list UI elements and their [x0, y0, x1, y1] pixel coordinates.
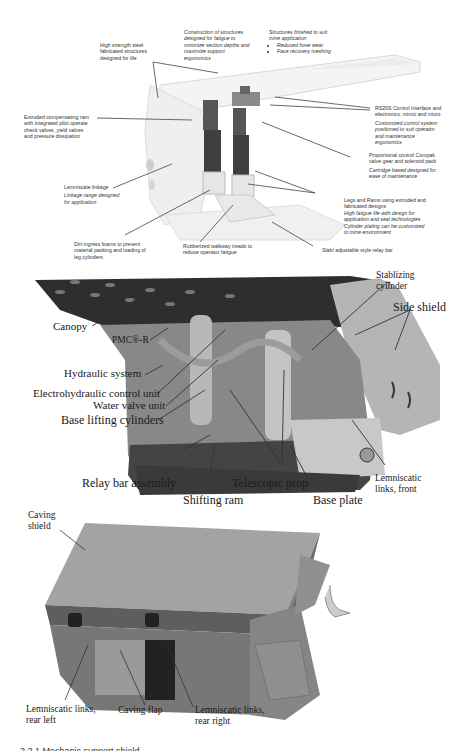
label-dirt: Dirt ingress foams to prevent material p…: [74, 241, 146, 260]
label-construction: Construction of structures designed for …: [184, 29, 249, 61]
label-caving-shield: Caving shield: [28, 510, 55, 531]
label-side-shield: Side shield: [393, 301, 446, 313]
figure-caption: 2.2.1 Mechanic support shield: [20, 744, 140, 751]
label-pmc-r: PMC®-R: [112, 335, 149, 346]
label-lemniscatic-links-front: Lemniscatic links, front: [375, 473, 421, 494]
label-high-strength: High strength steel fabricated structure…: [100, 42, 147, 61]
label-rubberized: Rubberized walkway treads to reduce oper…: [183, 243, 252, 256]
shield-support-panel: Canopy PMC®-R Hydraulic system Electrohy…: [0, 270, 471, 520]
label-base-plate: Base plate: [313, 494, 363, 506]
label-shifting-ram: Shifting ram: [183, 494, 243, 506]
label-extruded: Extruded compensating ram with integrate…: [24, 114, 89, 140]
label-finished: Structures finished to suit mine applica…: [269, 29, 331, 55]
label-electrohydraulic-control-unit: Electrohydraulic control unit: [33, 387, 160, 399]
finished-bullets: Reduced hose wear Face recovery meshing: [269, 42, 331, 55]
label-lemniscatic-links-rear-right: Lemniscatic links, rear right: [195, 705, 265, 726]
label-telescopic-prop: Telescopic prop: [232, 477, 308, 489]
caving-shield-panel: Caving shield Lemniscatic links, rear le…: [0, 515, 471, 745]
label-caving-flap: Caving flap: [118, 705, 163, 716]
annotated-support-panel: High strength steel fabricated structure…: [0, 0, 471, 280]
label-canopy: Canopy: [53, 320, 87, 332]
label-proportional: Proportional control Compak valve gear a…: [369, 152, 436, 180]
label-slab: Slab/ adjustable style relay bar: [322, 247, 393, 253]
label-base-lifting-cylinders: Base lifting cylinders: [61, 414, 164, 426]
label-stabilizing-cylinder: Stablizing cylinder: [376, 270, 415, 291]
label-legs: Legs and Rams using extruded and fabrica…: [344, 197, 426, 235]
label-lemniscate: Lemniscate linkage Linkage range designe…: [64, 184, 119, 205]
label-relay-bar-assembly: Relay bar assembly: [82, 477, 176, 489]
label-water-valve-unit: Water valve unit: [93, 399, 165, 411]
label-rs20s: RS20S Control Interface and electronics,…: [375, 105, 441, 145]
label-hydraulic-system: Hydraulic system: [64, 367, 141, 379]
label-lemniscatic-links-rear-left: Lemniscatic links, rear left: [26, 704, 96, 725]
